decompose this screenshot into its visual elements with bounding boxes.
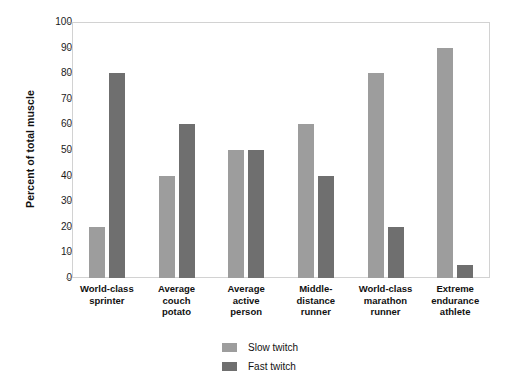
bar-slow-twitch bbox=[368, 73, 384, 278]
bar-fast-twitch bbox=[388, 227, 404, 278]
x-axis-category-label: World-classsprinter bbox=[68, 283, 146, 306]
x-axis-labels: World-classsprinterAveragecouchpotatoAve… bbox=[72, 283, 490, 335]
x-axis-category-label-line: distance bbox=[277, 295, 355, 307]
legend-item: Slow twitch bbox=[222, 340, 382, 355]
chart-figure: Percent of total muscle 0102030405060708… bbox=[0, 0, 513, 391]
x-axis-category-label-line: World-class bbox=[68, 283, 146, 295]
x-axis-category-label-line: Extreme bbox=[416, 283, 494, 295]
bar-slow-twitch bbox=[228, 150, 244, 278]
x-axis-category-label-line: sprinter bbox=[68, 295, 146, 307]
x-axis-category-label-line: runner bbox=[347, 306, 425, 318]
bar-fast-twitch bbox=[179, 124, 195, 278]
x-axis-category-label-line: World-class bbox=[347, 283, 425, 295]
x-axis-category-label: Averageactiveperson bbox=[207, 283, 285, 318]
x-axis-category-label: Extremeenduranceathlete bbox=[416, 283, 494, 318]
x-axis-category-label-line: marathon bbox=[347, 295, 425, 307]
legend-label: Fast twitch bbox=[248, 361, 296, 372]
bar-fast-twitch bbox=[318, 176, 334, 278]
bars-layer bbox=[72, 22, 490, 278]
x-axis-category-label-line: active bbox=[207, 295, 285, 307]
bar-fast-twitch bbox=[109, 73, 125, 278]
legend-swatch-slow-twitch bbox=[222, 343, 237, 352]
legend-swatch-fast-twitch bbox=[222, 362, 237, 371]
x-axis-category-label-line: person bbox=[207, 306, 285, 318]
x-axis-category-label-line: athlete bbox=[416, 306, 494, 318]
x-axis-category-label-line: Middle- bbox=[277, 283, 355, 295]
bar-fast-twitch bbox=[248, 150, 264, 278]
x-axis-category-label-line: Average bbox=[207, 283, 285, 295]
x-axis-category-label-line: endurance bbox=[416, 295, 494, 307]
x-axis-category-label: Middle-distancerunner bbox=[277, 283, 355, 318]
bar-slow-twitch bbox=[298, 124, 314, 278]
x-axis-category-label-line: Average bbox=[138, 283, 216, 295]
bar-slow-twitch bbox=[437, 48, 453, 278]
x-axis-category-label-line: potato bbox=[138, 306, 216, 318]
bar-slow-twitch bbox=[89, 227, 105, 278]
x-axis-category-label-line: couch bbox=[138, 295, 216, 307]
legend-label: Slow twitch bbox=[248, 342, 298, 353]
chart-legend: Slow twitchFast twitch bbox=[222, 340, 382, 378]
bar-fast-twitch bbox=[457, 265, 473, 278]
x-axis-category-label-line: runner bbox=[277, 306, 355, 318]
legend-item: Fast twitch bbox=[222, 359, 382, 374]
x-axis-category-label: World-classmarathonrunner bbox=[347, 283, 425, 318]
x-axis-category-label: Averagecouchpotato bbox=[138, 283, 216, 318]
bar-slow-twitch bbox=[159, 176, 175, 278]
y-axis-tick-mark bbox=[66, 278, 72, 279]
